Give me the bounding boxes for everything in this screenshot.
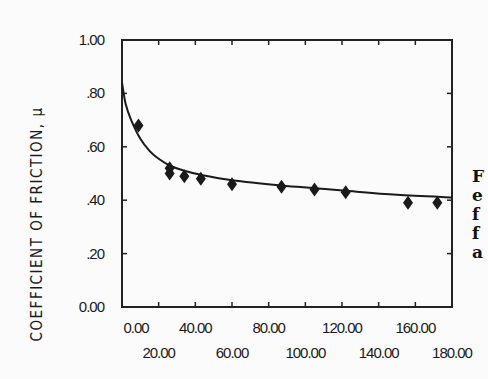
data-point (277, 180, 287, 194)
caption-fragment: Feffa (472, 166, 484, 262)
data-point (403, 196, 413, 210)
x-tick-label: 20.00 (142, 344, 175, 361)
y-tick-label: 1.00 (79, 31, 105, 48)
y-tick-label: .80 (86, 84, 105, 101)
x-tick-label: 100.00 (285, 344, 326, 361)
y-tick-label: .40 (86, 191, 105, 208)
x-tick-label: 180.00 (432, 344, 473, 361)
x-tick-label: 0.00 (123, 319, 149, 336)
chart: 0.0020.0040.0060.0080.00100.00120.00140.… (0, 0, 488, 379)
fitted-curve-layer (122, 83, 452, 198)
data-points (134, 118, 443, 209)
caption-letter: f (472, 204, 481, 224)
caption-letter: e (472, 185, 483, 205)
y-tick-label: .60 (86, 138, 105, 155)
y-tick-label: .20 (86, 245, 105, 262)
x-tick-label: 40.00 (179, 319, 212, 336)
data-point (341, 185, 351, 199)
caption-letter: a (472, 242, 483, 262)
x-tick-label: 120.00 (322, 319, 363, 336)
x-tick-label: 160.00 (395, 319, 436, 336)
x-tick-labels: 0.0020.0040.0060.0080.00100.00120.00140.… (123, 319, 472, 361)
x-tick-label: 140.00 (359, 344, 400, 361)
y-axis-label: COEFFICIENT OF FRICTION, μ (28, 107, 46, 342)
y-tick-labels: 0.00.20.40.60.801.00 (79, 31, 105, 315)
x-tick-label: 80.00 (252, 319, 285, 336)
y-tick-label: 0.00 (79, 298, 105, 315)
caption-letter: f (472, 223, 481, 243)
x-tick-label: 60.00 (216, 344, 249, 361)
fitted-curve (122, 83, 452, 198)
caption-letter: F (472, 166, 484, 186)
data-point (310, 183, 320, 197)
